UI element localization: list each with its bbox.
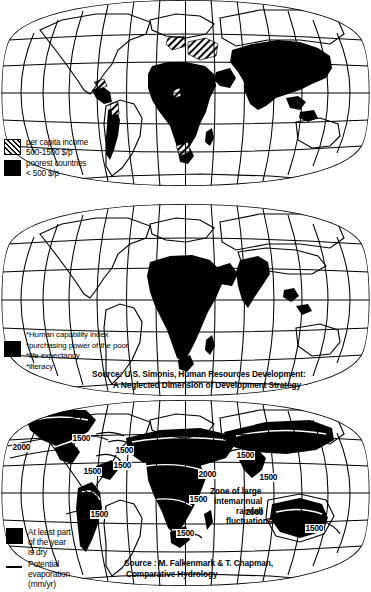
contour-label-1500-10: 1500 xyxy=(189,495,208,504)
legend-poorest-line1: poorest countries xyxy=(26,159,86,169)
legend-text-evaporation: Potential evaporation (mm/yr) xyxy=(28,559,70,589)
annot-line3: rainfall xyxy=(236,507,272,517)
annot-line2: intemannual xyxy=(214,497,272,507)
legend-poorest-line2: < 500 $/p xyxy=(26,169,86,179)
hci-line-purchasing-power: *purchasing power of the poor xyxy=(26,341,128,352)
source-falkenmark-line1: Source : M. Falkenmark & T. Chapman, xyxy=(124,558,273,569)
legend-income-line1: per capita income xyxy=(26,138,88,148)
legend-income: per capita income 500-1500 $/p poorest c… xyxy=(4,138,88,180)
legend-dry-line1: At least part xyxy=(28,527,71,537)
contour-label-2000-6: 2000 xyxy=(198,470,217,479)
legend-item-potential-evaporation: Potential evaporation (mm/yr) xyxy=(6,559,71,589)
legend-evap-line1: Potential xyxy=(28,559,70,569)
figure-three-world-maps: per capita income 500-1500 $/p poorest c… xyxy=(0,0,371,592)
legend-income-line2: 500-1500 $/p xyxy=(26,148,88,158)
annot-line4: fluctuations xyxy=(226,517,272,527)
swatch-solid-dry xyxy=(6,528,23,544)
contour-label-1500-3: 1500 xyxy=(115,446,134,455)
legend-text-income: per capita income 500-1500 $/p xyxy=(26,138,88,157)
hci-line-index: *Human capability index xyxy=(26,330,128,341)
contour-label-1500-8: 1500 xyxy=(90,510,109,519)
legend-text-dry: At least part of the year is dry xyxy=(28,527,71,557)
annotation-rainfall-fluctuations: Zone of large intemannual rainfall fluct… xyxy=(210,487,272,527)
contour-label-2000-0: 2000 xyxy=(12,443,31,452)
contour-label-1500-2: 1500 xyxy=(83,467,102,476)
source-simonis-line2: A Neglected Dimension of Development Str… xyxy=(113,380,306,391)
source-falkenmark-line2: Comparative Hydrology xyxy=(126,569,273,580)
legend-dryness: At least part of the year is dry Potenti… xyxy=(6,527,71,591)
legend-text-poorest: poorest countries < 500 $/p xyxy=(26,159,86,178)
swatch-solid-human-capability xyxy=(4,341,21,357)
legend-item-per-capita-income: per capita income 500-1500 $/p xyxy=(4,138,88,157)
legend-human-capability: *Human capability index *purchasing powe… xyxy=(4,330,128,374)
annot-line1: Zone of large xyxy=(210,487,272,497)
legend-dry-line3: is dry xyxy=(28,547,71,557)
legend-text-human-capability: *Human capability index *purchasing powe… xyxy=(26,330,128,372)
legend-evap-line3: (mm/yr) xyxy=(28,579,70,589)
legend-item-poorest-countries: poorest countries < 500 $/p xyxy=(4,159,88,178)
swatch-solid-poorest xyxy=(4,160,21,176)
legend-item-dry-season: At least part of the year is dry xyxy=(6,527,71,557)
legend-evap-line2: evaporation xyxy=(28,569,70,579)
source-simonis: Source: U.S. Simonis, Human Resources De… xyxy=(92,369,306,390)
contour-label-1500-9: 1500 xyxy=(176,529,195,538)
swatch-contour-line xyxy=(6,559,23,575)
contour-label-1500-1: 1500 xyxy=(72,434,91,443)
source-simonis-line1: Source: U.S. Simonis, Human Resources De… xyxy=(92,369,306,380)
contour-label-1500-4: 1500 xyxy=(113,461,132,470)
contour-label-1500-12: 1500 xyxy=(305,524,324,533)
swatch-hatched-income xyxy=(4,139,21,155)
legend-item-human-capability: *Human capability index *purchasing powe… xyxy=(4,330,128,372)
hci-line-life-expectancy: *life expectancy xyxy=(26,351,128,362)
contour-label-1500-5: 1500 xyxy=(236,451,255,460)
legend-dry-line2: of the year xyxy=(28,537,71,547)
source-falkenmark: Source : M. Falkenmark & T. Chapman, Com… xyxy=(124,558,273,579)
contour-label-1500-7: 1500 xyxy=(259,473,278,482)
